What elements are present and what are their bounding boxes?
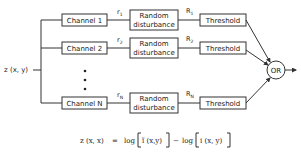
formula-log-1: log <box>124 137 135 145</box>
disturbance-label-2a: Random <box>140 40 169 48</box>
r-label-1: r1 <box>117 8 123 17</box>
detection-model-diagram: z (x, y) Channel 1 r1 Random disturbance… <box>0 0 301 156</box>
R-label-n: RN <box>186 90 194 99</box>
formula-term-1: ĩ (x,y) <box>142 137 162 145</box>
formula-minus: − <box>173 137 179 145</box>
bracket-open-1 <box>138 133 141 147</box>
threshold-label-n: Threshold <box>205 100 241 108</box>
disturbance-label-1b: disturbance <box>133 21 174 29</box>
formula: z (x, x) = log ĩ (x,y) − log i (x, y) <box>80 133 230 147</box>
channel-label-2: Channel 2 <box>67 45 102 53</box>
bracket-close-2 <box>227 133 230 147</box>
threshold-label-2: Threshold <box>205 45 241 53</box>
bracket-close-1 <box>166 133 169 147</box>
r-label-2: r2 <box>117 36 123 45</box>
channel-row-2: Channel 2 r2 Random disturbance R2 Thres… <box>41 35 268 65</box>
bracket-open-2 <box>196 133 199 147</box>
R-label-1: R1 <box>186 7 194 16</box>
r-label-n: rN <box>117 91 123 100</box>
ellipsis-dots <box>84 70 87 91</box>
channel-label-n: Channel N <box>66 100 102 108</box>
formula-term-2: i (x, y) <box>200 137 223 145</box>
disturbance-label-1a: Random <box>140 12 169 20</box>
formula-log-2: log <box>182 137 193 145</box>
input-label: z (x, y) <box>4 66 28 74</box>
formula-equals: = <box>112 137 118 145</box>
R-label-2: R2 <box>186 35 194 44</box>
disturbance-label-nb: disturbance <box>133 104 174 112</box>
formula-lhs: z (x, x) <box>80 137 104 145</box>
channel-label-1: Channel 1 <box>67 17 102 25</box>
channel-row-n: Channel N rN Random disturbance RN Thres… <box>41 78 270 113</box>
or-label: OR <box>271 67 282 75</box>
disturbance-label-2b: disturbance <box>133 49 174 57</box>
disturbance-label-na: Random <box>140 95 169 103</box>
threshold-label-1: Threshold <box>205 17 241 25</box>
